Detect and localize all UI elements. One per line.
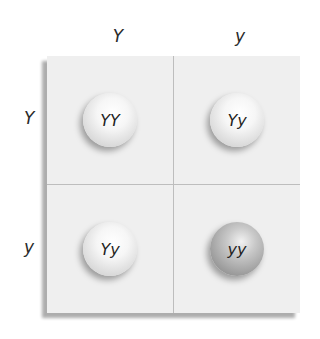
cell-top-left: YY	[47, 56, 173, 184]
offspring-sphere-icon: Yy	[210, 93, 264, 147]
column-allele-label-1: Y	[113, 28, 123, 45]
punnett-square-grid: YY Yy Yy yy	[47, 56, 300, 313]
cell-bottom-left: Yy	[47, 185, 173, 313]
genotype-label: Yy	[227, 111, 246, 130]
offspring-sphere-icon: yy	[210, 222, 264, 276]
column-allele-label-2: y	[235, 28, 245, 45]
cell-top-right: Yy	[174, 56, 300, 184]
offspring-sphere-icon: Yy	[83, 222, 137, 276]
offspring-sphere-icon: YY	[83, 93, 137, 147]
genotype-label: Yy	[100, 240, 119, 259]
genotype-label: YY	[100, 111, 120, 130]
row-allele-label-1: Y	[24, 110, 34, 127]
row-allele-label-2: y	[24, 239, 34, 256]
cell-bottom-right: yy	[174, 185, 300, 313]
genotype-label: yy	[228, 240, 247, 259]
